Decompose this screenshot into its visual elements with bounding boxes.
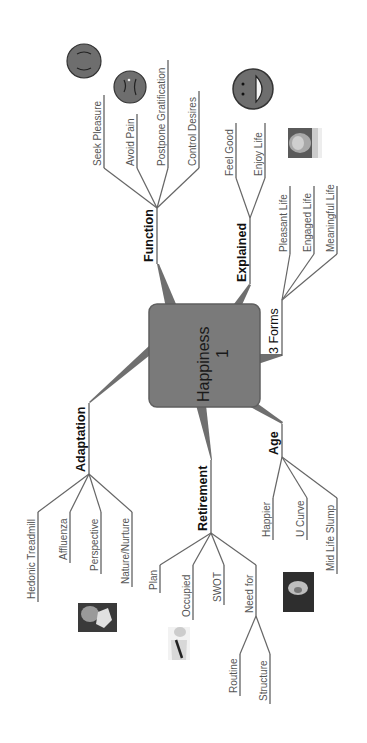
adaptation-child-hedonic-treadmill[interactable]: Hedonic Treadmill [26,519,37,599]
forms-child-meaningful-life[interactable]: Meaningful Life [325,184,336,252]
explained-child-enjoy-life[interactable]: Enjoy Life [253,132,264,176]
age-child-mid-life-slump[interactable]: Mid Life Slump [325,504,336,571]
person-photo-retirement [168,627,190,660]
retirement-child-swot[interactable]: SWOT [212,572,223,602]
central-title: Happiness [195,326,212,402]
mind-map: Happiness 1 Function Seek Pleasure Avoid… [0,0,367,743]
function-child-postpone-gratification[interactable]: Postpone Gratification [156,68,167,166]
forms-child-engaged-life[interactable]: Engaged Life [302,193,313,252]
adaptation-label[interactable]: Adaptation [74,407,88,472]
retirement-child-occupied[interactable]: Occupied [181,575,192,617]
retirement-child-plan[interactable]: Plan [148,570,159,590]
connector-adaptation [89,345,150,403]
function-child-avoid-pain[interactable]: Avoid Pain [125,118,136,166]
retirement-label[interactable]: Retirement [196,465,210,531]
central-node[interactable]: Happiness 1 [149,304,260,407]
happy-face-icon [233,69,273,109]
need-for-child-structure[interactable]: Structure [258,660,269,701]
branch-explained[interactable]: Explained Feel Good Enjoy Life [224,123,265,284]
explained-child-feel-good[interactable]: Feel Good [224,129,235,176]
neutral-face-icon [67,44,101,78]
branch-retirement[interactable]: Retirement Plan Occupied SWOT Need for R… [148,460,270,704]
forms-child-pleasant-life[interactable]: Pleasant Life [278,194,289,252]
function-child-seek-pleasure[interactable]: Seek Pleasure [92,101,103,166]
portrait-photo-explained [288,128,322,158]
function-child-control-desires[interactable]: Control Desires [187,97,198,166]
retirement-child-need-for[interactable]: Need for [244,574,255,613]
adaptation-child-perspective[interactable]: Perspective [89,518,100,571]
portrait-photo-age [283,572,314,612]
connector-function [157,264,176,308]
age-label[interactable]: Age [267,431,281,455]
adaptation-child-nature-nurture[interactable]: Nature/Nurture [120,517,131,584]
age-child-happier[interactable]: Happier [261,501,272,537]
branch-adaptation[interactable]: Adaptation Hedonic Treadmill Affluenza P… [26,403,132,602]
abstract-photo-adaptation [78,603,117,632]
connector-retirement [196,405,212,460]
sad-face-icon [114,71,146,103]
branch-3-forms[interactable]: 3 Forms Pleasant Life Engaged Life Meani… [267,184,337,356]
explained-label[interactable]: Explained [235,223,249,282]
adaptation-child-affluenza[interactable]: Affluenza [58,518,69,560]
age-child-u-curve[interactable]: U Curve [295,500,306,537]
connector-forms [258,354,282,364]
need-for-child-routine[interactable]: Routine [228,658,239,693]
central-number: 1 [214,349,231,358]
forms-label[interactable]: 3 Forms [267,308,281,354]
function-label[interactable]: Function [142,209,156,262]
branch-age[interactable]: Age Happier U Curve Mid Life Slump [261,424,337,574]
